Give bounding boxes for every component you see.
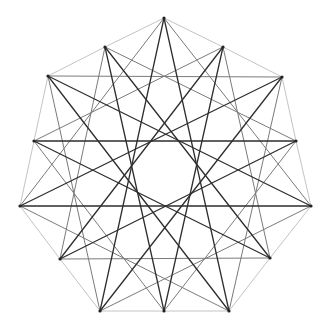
vertex-point — [162, 309, 165, 312]
vertex-point — [162, 16, 165, 19]
star-7-2-line — [60, 47, 105, 259]
vertex-point — [98, 309, 101, 312]
vertex-point — [294, 139, 297, 142]
vertex-point — [227, 309, 230, 312]
star-7-3-line — [60, 47, 223, 259]
vertex-point — [309, 204, 312, 207]
vertex-point — [221, 45, 224, 48]
vertex-point — [58, 257, 61, 260]
outline-edge — [164, 18, 223, 47]
vertex-point — [32, 139, 35, 142]
vertex-point — [18, 204, 21, 207]
outline-edge — [270, 206, 311, 258]
diagram-svg — [0, 0, 330, 331]
outline-edge — [223, 47, 282, 77]
vertex-point — [268, 256, 271, 259]
star-7-3-line — [164, 47, 223, 311]
heptagon-star-diagram — [0, 0, 330, 331]
star-7-2-line — [60, 258, 270, 259]
star-7-2-line — [105, 47, 296, 141]
vertex-point — [280, 75, 283, 78]
vertex-point — [103, 45, 106, 48]
star-7-3-line — [60, 141, 296, 259]
outline-edge — [20, 206, 60, 259]
outline-edge — [34, 76, 48, 141]
vertex-point — [46, 74, 49, 77]
star-7-3-line — [34, 141, 270, 258]
outline-edge — [48, 47, 105, 76]
star-7-3-line — [105, 47, 164, 311]
outline-edge — [282, 77, 296, 141]
outline-edge — [105, 18, 164, 47]
